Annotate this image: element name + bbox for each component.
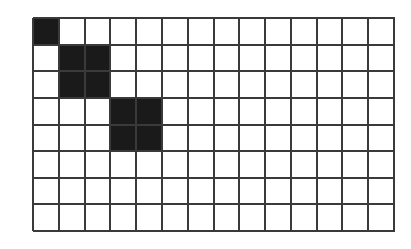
- grid-horizontal-line: [33, 230, 395, 232]
- grid-horizontal-line: [33, 17, 395, 19]
- grid-horizontal-line: [33, 150, 395, 152]
- grid-horizontal-line: [33, 177, 395, 179]
- grid-horizontal-line: [33, 44, 395, 46]
- grid-horizontal-line: [33, 124, 395, 126]
- grid-horizontal-line: [33, 70, 395, 72]
- grid-horizontal-line: [33, 97, 395, 99]
- filled-block: [33, 18, 59, 45]
- grid-diagram: [33, 18, 394, 231]
- grid-horizontal-line: [33, 203, 395, 205]
